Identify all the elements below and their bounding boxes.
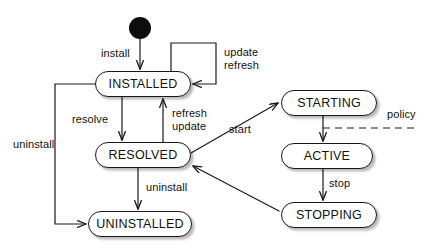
edge-label-refresh: refresh: [172, 107, 207, 119]
state-stopping-label: STOPPING: [296, 209, 362, 222]
state-starting-label: STARTING: [297, 97, 361, 110]
state-uninstalled[interactable]: UNINSTALLED: [88, 211, 192, 237]
state-active[interactable]: ACTIVE: [281, 143, 373, 169]
edge-label-uninstall-left: uninstall: [13, 138, 54, 150]
state-active-label: ACTIVE: [304, 150, 350, 163]
edge-uninstall-left: [55, 84, 95, 224]
edge-label-install: install: [101, 47, 130, 59]
edge-label-stop: stop: [329, 177, 350, 189]
edge-stopping-resolved: [193, 166, 279, 211]
state-diagram: INSTALLED RESOLVED UNINSTALLED STARTING …: [0, 0, 430, 246]
state-resolved[interactable]: RESOLVED: [95, 142, 191, 168]
edge-label-refresh-loop: refresh: [224, 59, 259, 71]
edge-label-resolve: resolve: [72, 113, 108, 125]
state-uninstalled-label: UNINSTALLED: [96, 218, 183, 231]
state-installed-label: INSTALLED: [109, 78, 178, 91]
edge-label-policy: policy: [387, 108, 416, 120]
state-stopping[interactable]: STOPPING: [281, 202, 377, 228]
state-installed[interactable]: INSTALLED: [95, 71, 191, 97]
state-starting[interactable]: STARTING: [281, 90, 377, 116]
edge-label-update: update: [224, 46, 258, 58]
initial-state-node: [129, 17, 151, 39]
edge-label-update-second: update: [172, 120, 206, 132]
edge-label-uninstall-mid: uninstall: [146, 181, 187, 193]
state-resolved-label: RESOLVED: [109, 149, 178, 162]
edge-label-start: start: [229, 123, 251, 135]
